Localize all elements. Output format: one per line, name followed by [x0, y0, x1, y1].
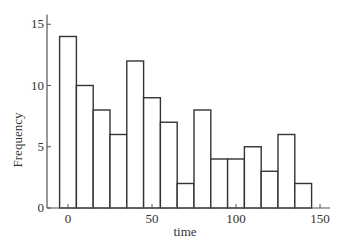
- x-tick-label: 150: [310, 211, 330, 226]
- histogram-bar: [76, 86, 93, 209]
- y-tick-label: 0: [38, 200, 45, 215]
- histogram-bar: [244, 147, 261, 208]
- histogram-bar: [110, 135, 127, 209]
- x-tick-label: 50: [146, 211, 159, 226]
- histogram-bar: [144, 98, 161, 208]
- histogram-bar: [177, 184, 194, 209]
- x-axis-title: time: [173, 224, 196, 239]
- x-tick-label: 100: [226, 211, 246, 226]
- histogram-bar: [93, 110, 110, 208]
- histogram-bar: [261, 171, 278, 208]
- histogram-bar: [228, 159, 245, 208]
- histogram-bar: [194, 110, 211, 208]
- histogram-bar: [211, 159, 228, 208]
- histogram-bar: [127, 61, 144, 208]
- y-tick-label: 15: [31, 16, 44, 31]
- x-tick-label: 0: [65, 211, 72, 226]
- y-axis-title: Frequency: [10, 112, 25, 167]
- histogram-chart: 051015050100150timeFrequency: [0, 0, 348, 252]
- histogram-bar: [295, 184, 312, 209]
- y-tick-label: 5: [38, 139, 45, 154]
- histogram-bar: [278, 135, 295, 209]
- histogram-bar: [160, 122, 177, 208]
- histogram-bar: [60, 37, 77, 209]
- y-tick-label: 10: [31, 78, 44, 93]
